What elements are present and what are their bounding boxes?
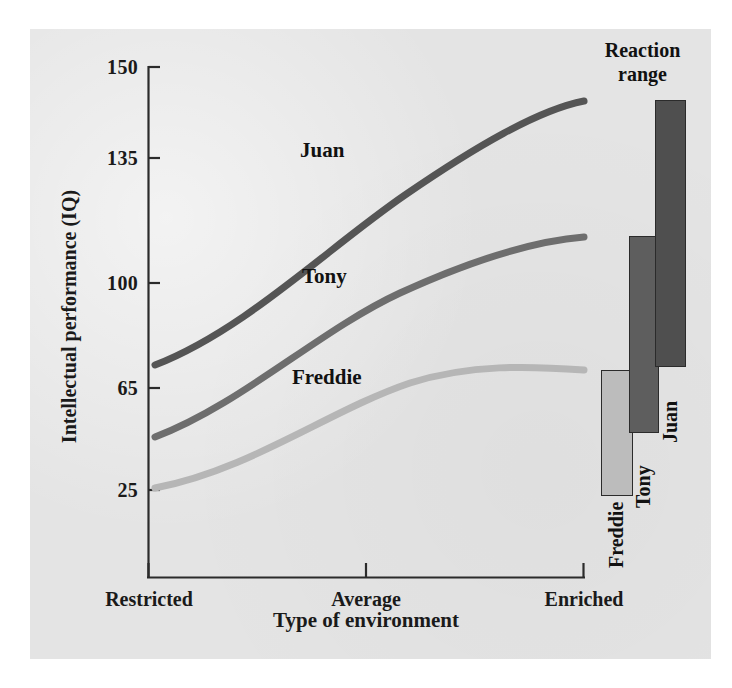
curve-label-freddie: Freddie [292,365,362,390]
y-tick-label-150: 150 [78,56,138,79]
y-axis-title: Intellectual performance (IQ) [58,187,81,447]
reaction-bar-label-juan: Juan [659,401,682,443]
reaction-range-title-line2: range [618,63,667,85]
reaction-bar-juan [655,100,686,367]
y-tick-label-100: 100 [78,272,138,295]
y-tick-label-25: 25 [78,479,138,502]
curve-label-juan: Juan [300,138,344,163]
reaction-bar-label-freddie: Freddie [605,502,628,568]
curve-label-tony: Tony [302,264,347,289]
figure-page: 150 135 100 65 25 Intellectual performan… [0,0,732,688]
y-tick-label-135: 135 [78,147,138,170]
reaction-range-title-line1: Reaction [605,39,681,61]
reaction-range-title: Reaction range [575,39,710,86]
reaction-bar-label-tony: Tony [632,465,655,508]
x-axis-title: Type of environment [148,608,584,633]
y-tick-label-65: 65 [78,377,138,400]
